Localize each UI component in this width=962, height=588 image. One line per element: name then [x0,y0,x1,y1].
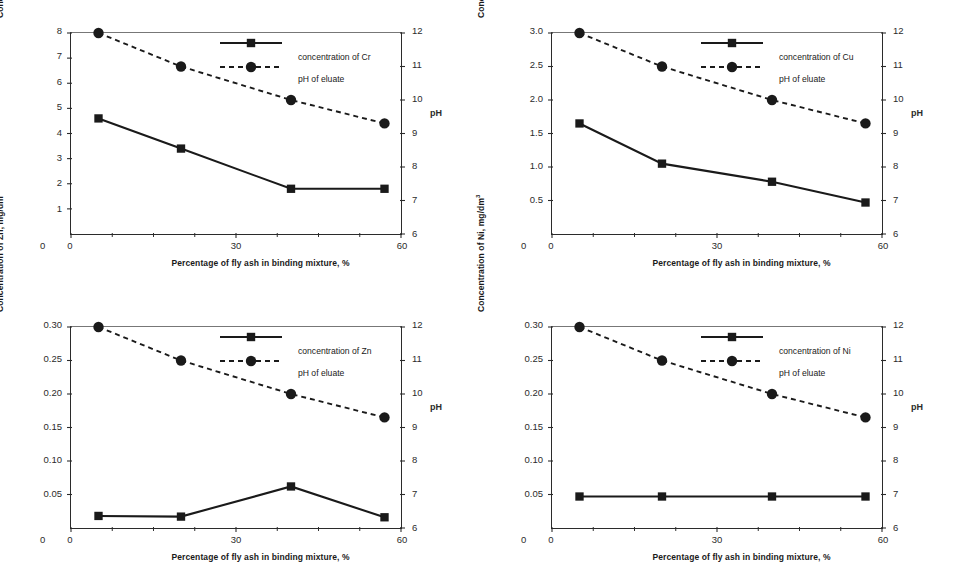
y-axis-title: Concentration of Zn, mg/dm3 [0,112,5,312]
legend: concentration of Ni pH of eluate [699,330,889,378]
x-axis-tick-labels: 03060 [70,240,402,256]
x-axis-title: Percentage of fly ash in binding mixture… [0,552,481,562]
y-axis-tick-label: 0.20 [525,387,544,398]
ph-axis-tick-label: 11 [412,59,422,70]
legend: concentration of Cr pH of eluate [218,36,408,84]
ph-axis-tick-label: 10 [893,387,904,398]
y-axis-tick-label: 4 [57,127,62,138]
ph-axis-tick-label: 8 [893,454,898,465]
y-axis-zero-label: 0 [521,534,526,545]
x-axis-tick-label: 60 [397,534,408,545]
y-axis-tick-label: 0.30 [44,319,63,330]
legend-entry-concentration: concentration of Zn [218,330,408,354]
y-axis-tick-label: 8 [57,25,62,36]
y-axis-zero-label: 0 [40,534,45,545]
y-axis-tick-label: 0.5 [530,194,543,205]
legend: concentration of Cu pH of eluate [699,36,889,84]
legend-key-dashed-circle-icon [218,354,284,368]
y-axis-tick-label: 0.10 [44,454,63,465]
ph-axis-title: pH [911,402,923,412]
legend-key-dashed-circle-icon [218,60,284,74]
y-axis-tick-label: 2.5 [530,59,543,70]
y-axis-tick-label: 1 [57,203,62,214]
ph-axis-tick-labels: 6789101112pH [893,326,933,529]
ph-axis-tick-label: 8 [893,160,898,171]
ph-axis-tick-label: 10 [412,387,423,398]
y-axis-tick-label: 6 [57,76,62,87]
x-axis-tick-labels: 03060 [70,534,402,550]
ph-axis-tick-label: 11 [893,353,903,364]
y-axis-tick-label: 0.20 [44,387,63,398]
ph-axis-tick-label: 8 [412,454,417,465]
ph-axis-tick-labels: 6789101112pH [412,326,452,529]
ph-axis-tick-label: 11 [412,353,422,364]
x-axis-tick-label: 30 [712,240,723,251]
x-axis-title: Percentage of fly ash in binding mixture… [481,258,962,268]
x-axis-tick-label: 60 [878,240,889,251]
legend-entry-ph: pH of eluate [218,354,408,378]
legend-key-solid-square-icon [218,330,284,344]
ph-axis-tick-label: 7 [893,488,898,499]
x-axis-tick-label: 0 [67,240,72,251]
figure-grid: Concentration of Cr, mg/dm3 12345678 678… [0,0,962,588]
chart-panel-cu: Concentration of Cu, mg/dm3 0.51.01.52.0… [481,0,962,294]
legend-key-dashed-circle-icon [699,354,765,368]
y-axis-tick-label: 0.30 [525,319,544,330]
y-axis-tick-labels: 12345678 [8,32,62,235]
x-axis-tick-label: 0 [67,534,72,545]
chart-panel-ni: Concentration of Ni, mg/dm3 0.050.100.15… [481,294,962,588]
x-axis-tick-labels: 03060 [551,240,883,256]
y-axis-tick-label: 1.5 [530,127,543,138]
y-axis-tick-label: 3 [57,152,62,163]
legend-key-solid-square-icon [218,36,284,50]
legend-label-ph: pH of eluate [298,368,344,378]
legend-key-solid-square-icon [699,36,765,50]
x-axis-tick-label: 60 [878,534,889,545]
legend: concentration of Zn pH of eluate [218,330,408,378]
ph-axis-tick-label: 7 [412,194,417,205]
ph-axis-title: pH [911,108,923,118]
x-axis-tick-label: 30 [231,240,242,251]
ph-axis-tick-label: 10 [893,93,904,104]
y-axis-tick-label: 2.0 [530,93,543,104]
ph-axis-tick-label: 6 [412,228,417,239]
ph-axis-tick-label: 12 [893,25,904,36]
ph-axis-tick-labels: 6789101112pH [893,32,933,235]
ph-axis-tick-label: 9 [412,421,417,432]
y-axis-tick-labels: 0.050.100.150.200.250.30 [489,326,543,529]
ph-axis-tick-label: 12 [412,25,423,36]
x-axis-tick-label: 0 [548,240,553,251]
ph-axis-tick-label: 11 [893,59,903,70]
y-axis-tick-label: 0.15 [525,421,544,432]
y-axis-tick-label: 3.0 [530,25,543,36]
x-axis-tick-label: 60 [397,240,408,251]
ph-axis-tick-labels: 6789101112pH [412,32,452,235]
y-axis-tick-label: 0.05 [44,488,63,499]
y-axis-tick-label: 0.15 [44,421,63,432]
ph-axis-tick-label: 12 [893,319,904,330]
ph-axis-tick-label: 6 [893,228,898,239]
ph-axis-title: pH [430,108,442,118]
y-axis-title: Concentration of Cr, mg/dm3 [0,0,5,18]
ph-axis-tick-label: 6 [893,522,898,533]
legend-entry-concentration: concentration of Cr [218,36,408,60]
y-axis-tick-label: 1.0 [530,160,543,171]
x-axis-tick-label: 0 [548,534,553,545]
legend-entry-ph: pH of eluate [699,60,889,84]
y-axis-tick-label: 0.25 [525,353,544,364]
x-axis-tick-labels: 03060 [551,534,883,550]
chart-panel-cr: Concentration of Cr, mg/dm3 12345678 678… [0,0,481,294]
legend-entry-concentration: concentration of Cu [699,36,889,60]
ph-axis-tick-label: 10 [412,93,423,104]
chart-panel-zn: Concentration of Zn, mg/dm3 0.050.100.15… [0,294,481,588]
ph-axis-tick-label: 8 [412,160,417,171]
legend-label-ph: pH of eluate [779,74,825,84]
legend-entry-concentration: concentration of Ni [699,330,889,354]
y-axis-tick-label: 0.10 [525,454,544,465]
y-axis-title: Concentration of Cu, mg/dm3 [475,0,486,18]
y-axis-tick-labels: 0.050.100.150.200.250.30 [8,326,62,529]
x-axis-title: Percentage of fly ash in binding mixture… [0,258,481,268]
y-axis-tick-label: 0.25 [44,353,63,364]
legend-entry-ph: pH of eluate [218,60,408,84]
x-axis-title: Percentage of fly ash in binding mixture… [481,552,962,562]
